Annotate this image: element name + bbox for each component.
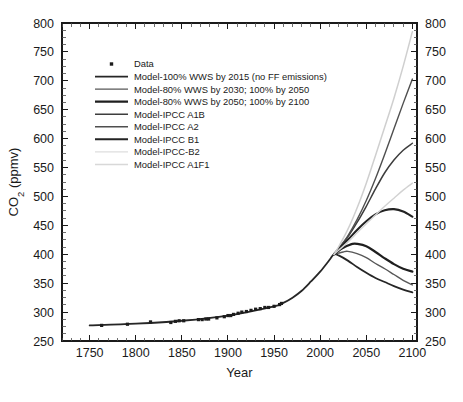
legend-label-5: Model-IPCC A2 [134, 121, 199, 132]
data-point [229, 314, 232, 317]
data-point [197, 318, 200, 321]
legend-label-7: Model-IPCC-B2 [134, 146, 200, 157]
x-tick-label: 2050 [352, 346, 380, 360]
data-point [169, 321, 172, 324]
x-tick-label: 2100 [398, 346, 426, 360]
legend-marker-data [110, 62, 113, 65]
data-point [245, 310, 248, 313]
chart-canvas: 1750180018501900195020002050210025025030… [0, 0, 463, 402]
y-tick-label-left: 400 [33, 248, 54, 262]
y-tick-label-left: 750 [33, 45, 54, 59]
legend-label-8: Model-IPCC A1F1 [134, 159, 210, 170]
x-tick-label: 2000 [306, 346, 334, 360]
x-axis-title: Year [226, 365, 253, 380]
y-tick-label-left: 700 [33, 74, 54, 88]
y-tick-label-right: 500 [425, 190, 446, 204]
data-point [174, 320, 177, 323]
y-tick-label-right: 450 [425, 219, 446, 233]
data-point [182, 319, 185, 322]
data-point [263, 306, 266, 309]
y-tick-label-right: 600 [425, 132, 446, 146]
y-tick-label-left: 300 [33, 306, 54, 320]
x-tick-label: 1800 [122, 346, 150, 360]
data-point [126, 323, 129, 326]
co2-projection-chart: 1750180018501900195020002050210025025030… [0, 0, 463, 402]
data-point [237, 312, 240, 315]
data-point [207, 317, 210, 320]
y-tick-label-left: 550 [33, 161, 54, 175]
legend-label-0: Data [134, 58, 155, 69]
x-tick-label: 1950 [260, 346, 288, 360]
data-point [223, 315, 226, 318]
y-tick-label-left: 450 [33, 219, 54, 233]
y-tick-label-right: 550 [425, 161, 446, 175]
data-point [267, 306, 270, 309]
legend-label-2: Model-80% WWS by 2030; 100% by 2050 [134, 84, 309, 95]
data-point [178, 319, 181, 322]
y-tick-label-left: 800 [33, 17, 54, 31]
y-tick-label-left: 600 [33, 132, 54, 146]
data-point [204, 317, 207, 320]
x-tick-label: 1750 [76, 346, 104, 360]
legend-label-6: Model-IPCC B1 [134, 134, 199, 145]
data-point [215, 316, 218, 319]
y-tick-label-right: 300 [425, 306, 446, 320]
y-tick-label-right: 650 [425, 103, 446, 117]
x-tick-label: 1900 [214, 346, 242, 360]
y-tick-label-left: 500 [33, 190, 54, 204]
data-point [149, 320, 152, 323]
data-point [259, 307, 262, 310]
y-tick-label-left: 650 [33, 103, 54, 117]
data-point [272, 305, 275, 308]
y-tick-label-right: 250 [425, 335, 446, 349]
legend-label-3: Model-80% WWS by 2050; 100% by 2100 [134, 96, 309, 107]
legend-label-4: Model-IPCC A1B [134, 109, 205, 120]
y-tick-label-left: 250 [33, 335, 54, 349]
y-tick-label-right: 350 [425, 277, 446, 291]
data-point [226, 314, 229, 317]
data-point [249, 309, 252, 312]
y-tick-label-right: 750 [425, 45, 446, 59]
y-tick-label-right: 800 [425, 17, 446, 31]
data-point [280, 302, 283, 305]
data-point [232, 313, 235, 316]
y-tick-label-right: 700 [425, 74, 446, 88]
y-tick-label-left: 350 [33, 277, 54, 291]
x-tick-label: 1850 [168, 346, 196, 360]
data-point [254, 308, 257, 311]
data-point [201, 318, 204, 321]
legend-label-1: Model-100% WWS by 2015 (no FF emissions) [134, 71, 327, 82]
data-point [100, 324, 103, 327]
data-point [240, 310, 243, 313]
y-axis-title: CO2 (ppmv) [6, 148, 26, 217]
y-tick-label-right: 400 [425, 248, 446, 262]
